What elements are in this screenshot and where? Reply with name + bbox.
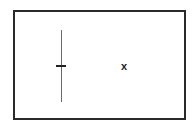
x-marker-label: x (121, 59, 127, 73)
diagram-frame: x (13, 10, 186, 120)
horizontal-tick (56, 65, 66, 67)
